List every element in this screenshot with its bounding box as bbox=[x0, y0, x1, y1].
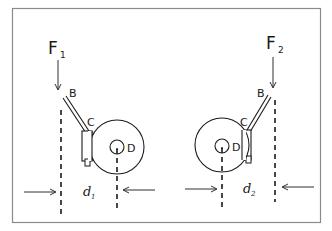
left-distance-subscript: 1 bbox=[91, 193, 95, 201]
left-distance-arrow-out-icon bbox=[123, 187, 155, 193]
right-lever bbox=[247, 95, 271, 132]
left-force-arrow-icon bbox=[55, 60, 61, 90]
left-force-label: F bbox=[48, 38, 58, 58]
left-lever-label: B bbox=[69, 87, 77, 100]
left-distance-arrow-in-icon bbox=[24, 189, 56, 195]
diagram-canvas: F 1 B C D bbox=[0, 0, 332, 231]
right-distance-arrow-out-icon bbox=[282, 184, 314, 190]
right-force-subscript: 2 bbox=[278, 45, 284, 55]
left-caliper-label: C bbox=[87, 116, 95, 129]
right-force-label: F bbox=[266, 33, 276, 53]
right-mechanism: F 2 B C D bbox=[185, 33, 314, 211]
right-distance-arrow-in-icon bbox=[185, 186, 217, 192]
left-hub-label: D bbox=[127, 142, 135, 155]
left-disc bbox=[90, 120, 144, 174]
right-disc bbox=[195, 118, 249, 172]
left-force-subscript: 1 bbox=[60, 50, 66, 60]
right-force-arrow-icon bbox=[270, 57, 276, 88]
left-mechanism: F 1 B C D bbox=[24, 38, 155, 214]
right-hub-label: D bbox=[232, 141, 240, 154]
right-distance-subscript: 2 bbox=[250, 190, 256, 198]
right-lever-label: B bbox=[257, 87, 265, 100]
left-lever bbox=[63, 96, 89, 133]
